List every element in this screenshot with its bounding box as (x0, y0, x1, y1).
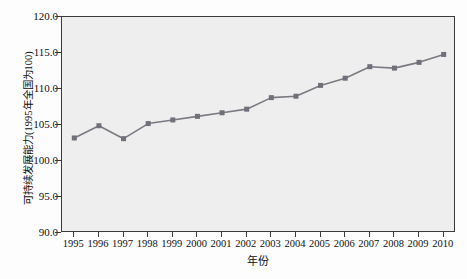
data-point-marker (195, 114, 200, 119)
data-point-marker (220, 110, 225, 115)
data-point-marker (146, 121, 151, 126)
data-point-marker (293, 94, 298, 99)
y-axis-tick-label: 90.0 (20, 227, 58, 238)
y-axis-tick-mark (55, 196, 61, 197)
x-axis-tick-mark (196, 232, 197, 237)
data-point-marker (96, 123, 101, 128)
series-line (74, 54, 443, 138)
y-axis-tick-mark (55, 124, 61, 125)
data-point-marker (269, 95, 274, 100)
x-axis-tick-mark (270, 232, 271, 237)
chart-container: 可持续发展能力(1995年全国为100) 90.095.0100.0105.01… (0, 0, 467, 279)
x-axis-tick-mark (443, 232, 444, 237)
y-axis-tick-label: 115.0 (20, 47, 58, 58)
y-axis-tick-mark (55, 52, 61, 53)
series-markers (72, 52, 446, 141)
y-axis-tick-label: 105.0 (20, 119, 58, 130)
x-axis-tick-mark (246, 232, 247, 237)
y-axis-tick-mark (55, 232, 61, 233)
x-axis-tick-mark (73, 232, 74, 237)
y-axis-tick-label: 110.0 (20, 83, 58, 94)
data-point-marker (392, 66, 397, 71)
data-point-marker (367, 64, 372, 69)
y-axis-tick-label: 100.0 (20, 155, 58, 166)
y-axis-tick-mark (55, 16, 61, 17)
x-axis-tick-mark (123, 232, 124, 237)
x-axis-tick-mark (295, 232, 296, 237)
y-axis-tick-mark (55, 88, 61, 89)
data-point-marker (318, 83, 323, 88)
x-axis-tick-mark (221, 232, 222, 237)
data-point-marker (244, 107, 249, 112)
x-axis-tick-mark (418, 232, 419, 237)
y-axis-tick-label: 95.0 (20, 191, 58, 202)
y-axis-tick-labels: 90.095.0100.0105.0110.0115.0120.0 (16, 0, 58, 279)
data-point-marker (343, 76, 348, 81)
x-axis-tick-mark (369, 232, 370, 237)
y-axis-tick-label: 120.0 (20, 11, 58, 22)
x-axis-tick-mark (344, 232, 345, 237)
x-axis-tick-mark (393, 232, 394, 237)
x-axis-tick-label: 2010 (423, 238, 463, 250)
x-axis-title: 年份 (61, 255, 455, 268)
data-point-marker (417, 60, 422, 65)
line-series-svg (62, 17, 456, 233)
x-axis-tick-mark (98, 232, 99, 237)
y-axis-tick-mark (55, 160, 61, 161)
x-axis-tick-mark (320, 232, 321, 237)
data-point-marker (170, 117, 175, 122)
data-point-marker (72, 135, 77, 140)
data-point-marker (121, 136, 126, 141)
data-point-marker (441, 52, 446, 57)
x-axis-tick-mark (147, 232, 148, 237)
plot-area (61, 16, 455, 232)
x-axis-tick-mark (172, 232, 173, 237)
